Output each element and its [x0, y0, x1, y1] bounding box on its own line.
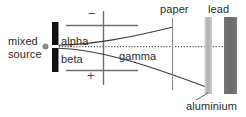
- aluminium-barrier-label: aluminium: [186, 101, 237, 112]
- source-label-line2: source: [8, 49, 42, 60]
- aluminium-leader-line: [196, 93, 208, 100]
- radiation-penetration-diagram: mixed source alpha beta gamma paper alum…: [0, 0, 246, 117]
- aluminium-barrier: [205, 17, 213, 94]
- negative-polarity-sign: −: [88, 7, 96, 20]
- gamma-ray-label: gamma: [119, 51, 156, 62]
- source-dot: [43, 44, 48, 49]
- paper-barrier-label: paper: [160, 4, 189, 15]
- collimator-block-upper: [52, 22, 59, 45]
- alpha-ray-label: alpha: [61, 36, 88, 47]
- lead-barrier: [224, 17, 237, 94]
- barriers-group: [173, 17, 238, 94]
- positive-polarity-sign: +: [87, 69, 95, 82]
- electrode-plates-group: [66, 11, 138, 85]
- lead-barrier-label: lead: [208, 4, 229, 15]
- beta-ray-label: beta: [61, 54, 83, 65]
- collimator-group: [43, 22, 59, 72]
- source-label-line1: mixed: [8, 36, 38, 47]
- collimator-block-lower: [52, 48, 59, 72]
